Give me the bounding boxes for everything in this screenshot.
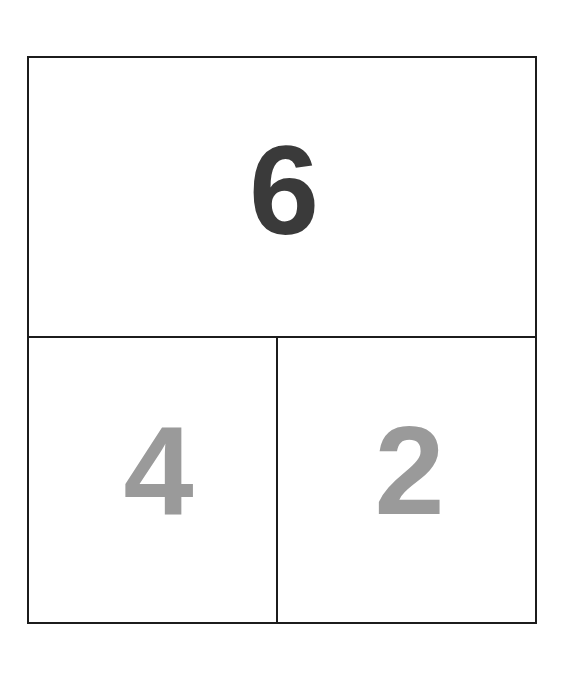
partition-box: 6 4 2: [27, 56, 537, 624]
region-bottom-left-label: 4: [123, 409, 193, 535]
region-bottom-right-label: 2: [374, 408, 444, 534]
region-top[interactable]: 6: [29, 58, 535, 338]
region-top-label: 6: [249, 128, 319, 254]
region-bottom-left[interactable]: 4: [29, 338, 278, 622]
region-bottom-right[interactable]: 2: [278, 338, 535, 622]
figure-canvas: 6 4 2: [0, 0, 563, 673]
